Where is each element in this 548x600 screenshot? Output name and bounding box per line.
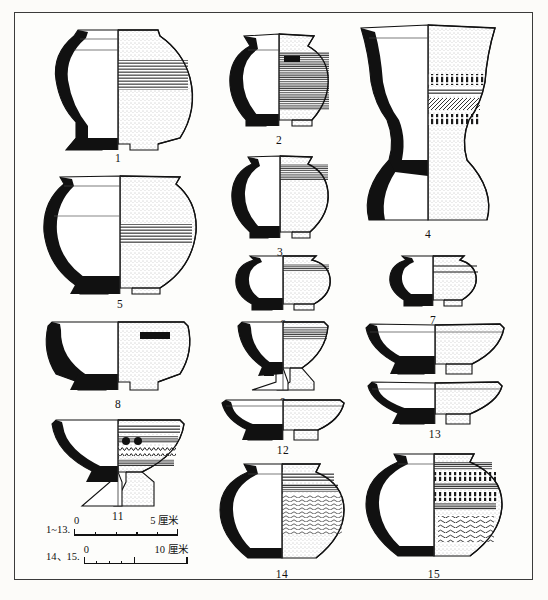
vessel-7: 7 <box>378 252 488 324</box>
scale-label-large: 14、15. <box>46 548 80 564</box>
scale-max-small: 5 厘米 <box>150 516 178 527</box>
ruler-large <box>84 556 188 564</box>
vessel-number: 1 <box>30 152 206 164</box>
vessel-12: 12 <box>218 396 348 458</box>
ruler-small <box>74 528 178 536</box>
vessel-5: 5 <box>30 172 210 312</box>
scale-row-small: 1~13. 0 5 厘米 <box>46 516 188 536</box>
vessel-13: 13 <box>362 378 508 444</box>
scale-zero-large: 0 <box>84 545 89 556</box>
scale-row-large: 14、15. 0 10 厘米 <box>46 545 188 565</box>
vessel-number: 15 <box>358 568 510 580</box>
scale-label-small: 1~13. <box>46 524 70 536</box>
vessel-number: 14 <box>212 568 352 580</box>
vessel-number: 4 <box>345 228 511 240</box>
vessel-15: 15 <box>358 448 510 580</box>
vessel-14: 14 <box>212 458 352 580</box>
vessel-number: 2 <box>218 134 340 146</box>
vessel-2: 2 <box>218 28 340 146</box>
vessel-8: 8 <box>30 318 206 410</box>
pottery-plate: 1 2 3 <box>0 0 548 600</box>
vessel-1: 1 <box>30 26 206 166</box>
scale-max-large: 10 厘米 <box>155 545 188 556</box>
scale-zero-small: 0 <box>74 516 79 527</box>
vessel-number: 5 <box>30 298 210 310</box>
scale-bars: 1~13. 0 5 厘米 14、15. <box>46 516 188 573</box>
vessel-number: 12 <box>218 444 348 456</box>
vessel-number: 8 <box>30 398 206 410</box>
vessel-4: 4 <box>345 20 511 240</box>
vessel-11: 11 <box>30 416 206 526</box>
vessel-number: 13 <box>362 428 508 440</box>
vessel-3: 3 <box>222 152 338 258</box>
